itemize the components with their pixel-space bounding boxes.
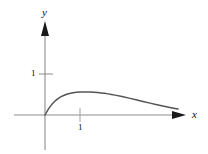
curve-path [45, 92, 178, 115]
y-axis-arrowhead [41, 21, 49, 36]
x-axis-arrowhead [172, 111, 186, 119]
y-axis-label: y [42, 7, 47, 18]
y-axis-tick-label-1: 1 [31, 69, 36, 78]
x-axis-tick-label-1: 1 [78, 123, 83, 132]
graph-figure: y x 1 1 [0, 0, 208, 154]
x-axis-label: x [192, 109, 197, 120]
